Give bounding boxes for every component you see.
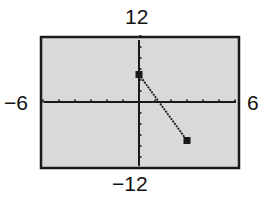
endpoint-marker xyxy=(136,71,143,78)
endpoint-marker xyxy=(184,137,191,144)
graph-screen xyxy=(0,0,273,204)
